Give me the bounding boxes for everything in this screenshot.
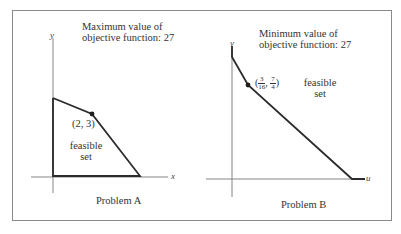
problem-a-region-label-line2: set <box>64 151 108 163</box>
problem-b-region-label-line2: set <box>298 88 342 100</box>
problem-a-x-axis-label: x <box>171 171 175 181</box>
problem-a-caption: Problem A <box>96 195 141 207</box>
problem-b-v-axis-label: v <box>230 38 234 48</box>
comma: , <box>265 77 268 88</box>
problem-b-annotation-line2: objective function: 27 <box>259 39 351 51</box>
problem-a-y-axis-label: y <box>50 30 54 40</box>
figure-graphics <box>0 0 401 234</box>
problem-a-annotation-line2: objective function: 27 <box>82 32 174 44</box>
problem-b-boundary <box>232 46 365 179</box>
problem-b-caption: Problem B <box>281 199 326 211</box>
problem-b-axes <box>206 48 362 197</box>
problem-a-feasible-region <box>53 98 140 176</box>
problem-a-vertex-label: (2, 3) <box>72 118 95 130</box>
problem-a-optimal-vertex-dot <box>90 112 95 117</box>
paren-close: ) <box>276 77 279 88</box>
problem-b-vertex-label: (316, 74) <box>255 76 279 91</box>
problem-a-axes <box>31 38 168 193</box>
problem-b-optimal-vertex-dot <box>246 83 251 88</box>
problem-b-u-axis-label: u <box>366 173 371 183</box>
